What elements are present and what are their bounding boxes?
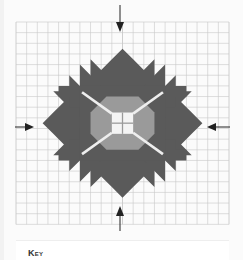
left-center-arrow-icon bbox=[15, 123, 34, 131]
key-panel: Key bbox=[16, 240, 229, 260]
key-title: Key bbox=[28, 248, 43, 258]
pattern-page: Key bbox=[0, 0, 243, 260]
pattern-chart bbox=[0, 0, 243, 240]
medium-octagon bbox=[82, 92, 163, 154]
